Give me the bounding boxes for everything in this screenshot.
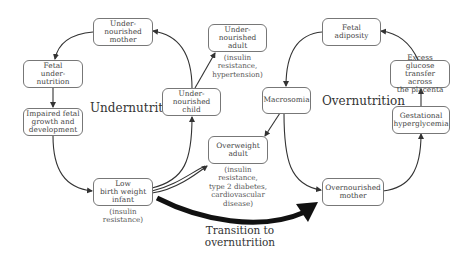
note-low-birth-weight: (insulin resistance) — [93, 208, 153, 225]
arrow-impaired-to-lbw — [53, 136, 92, 191]
arrow-macrosomia-to-overweight — [265, 113, 280, 136]
node-undernourished-adult: Under- nourished adult — [208, 24, 267, 52]
note-overweight-adult: (insulin resistance, type 2 diabetes, ca… — [200, 166, 276, 208]
arrow-macrosomia-to-overmother — [284, 113, 321, 190]
node-overweight-adult: Overweight adult — [208, 136, 268, 164]
node-low-birth-weight: Low birth weight infant — [93, 178, 153, 206]
node-fetal-adiposity: Fetal adiposity — [322, 18, 381, 46]
arrow-mother-to-fetal — [55, 32, 93, 59]
arrow-adiposity-to-macrosomia — [286, 32, 322, 86]
node-fetal-undernutrition: Fetal under- nutrition — [23, 60, 83, 88]
node-excess-glucose: Excess glucose transfer across the place… — [390, 60, 450, 88]
arrow-child-to-mother — [153, 31, 192, 88]
overnutrition-label: Overnutrition — [322, 94, 405, 108]
node-macrosomia: Macrosomia — [262, 87, 311, 114]
node-undernourished-mother: Under- nourished mother — [93, 18, 153, 46]
node-impaired-growth: Impaired fetal growth and development — [23, 108, 83, 136]
node-gestational-hyperglycemia: Gestational hyperglycemia — [392, 106, 450, 134]
node-overnourished-mother: Overnourished mother — [322, 178, 384, 206]
transition-label: Transition to overnutrition — [200, 224, 280, 248]
arrow-overmother-to-gestational — [383, 134, 421, 191]
note-undernourished-adult: (insulin resistance, hypertension) — [200, 54, 275, 79]
node-undernourished-child: Under- nourished child — [162, 88, 221, 116]
